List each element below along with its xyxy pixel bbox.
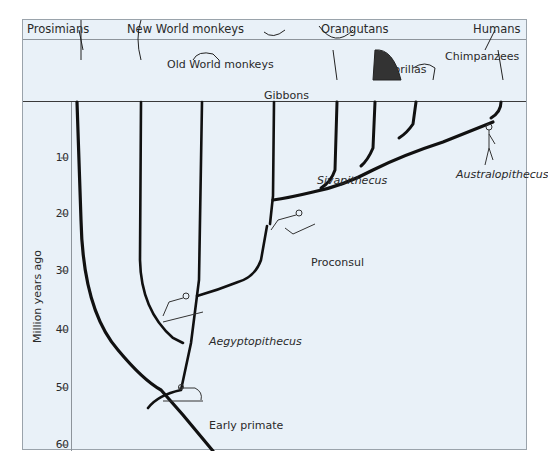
species-illustrations [79, 20, 503, 80]
fossil-sivapithecus: Sivapithecus [317, 174, 387, 187]
branch-tree [23, 20, 528, 451]
fossil-aegyptopithecus: Aegyptopithecus [209, 335, 302, 348]
phylogeny-diagram: Prosimians New World monkeys Orangutans … [22, 19, 527, 450]
fossil-proconsul: Proconsul [311, 256, 364, 269]
fossil-early-primate: Early primate [209, 419, 283, 432]
fossil-australopithecus: Australopithecus [456, 168, 548, 181]
